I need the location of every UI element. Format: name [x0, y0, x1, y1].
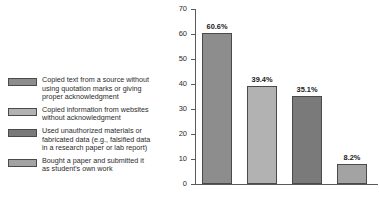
y-axis-tick-label: 0: [159, 180, 187, 188]
y-axis-tick-label: 60: [159, 30, 187, 38]
y-axis-tick: [191, 34, 195, 35]
bar-value-label: 35.1%: [285, 86, 329, 94]
bar-slot: 39.4%: [247, 9, 277, 184]
bar-series: 60.6%39.4%35.1%8.2%: [196, 9, 378, 184]
legend-label: Used unauthorized materials orfabricated…: [42, 127, 150, 153]
bar[interactable]: [202, 33, 232, 185]
bar-slot: 60.6%: [202, 9, 232, 184]
y-axis-tick-label: 40: [159, 80, 187, 88]
y-axis-tick: [191, 59, 195, 60]
legend-label-line: in a research paper or lab report): [42, 144, 150, 153]
y-axis-tick-label: 70: [159, 5, 187, 13]
bar[interactable]: [247, 86, 277, 185]
legend-label-line: proper acknowledgment: [42, 93, 149, 102]
legend-label-line: as student's own work: [42, 165, 144, 174]
legend-item: Bought a paper and submitted itas studen…: [8, 157, 173, 174]
y-axis-tick: [191, 134, 195, 135]
y-axis-tick-label: 10: [159, 155, 187, 163]
y-axis-tick: [191, 109, 195, 110]
legend-label-line: without acknowledgment: [42, 114, 149, 123]
legend-swatch: [8, 159, 37, 167]
bar-value-label: 39.4%: [240, 76, 284, 84]
legend-item: Copied text from a source withoutusing q…: [8, 76, 173, 102]
legend-swatch: [8, 78, 37, 86]
x-axis-line: [195, 184, 378, 185]
bar-value-label: 8.2%: [330, 154, 374, 162]
y-axis-tick: [191, 84, 195, 85]
plot-area: 706050403020100 60.6%39.4%35.1%8.2%: [160, 0, 379, 205]
y-axis-tick-label: 20: [159, 130, 187, 138]
y-axis-tick-label: 30: [159, 105, 187, 113]
bar-value-label: 60.6%: [195, 23, 239, 31]
y-axis-tick: [191, 184, 195, 185]
legend-label: Copied text from a source withoutusing q…: [42, 76, 149, 102]
bar[interactable]: [337, 164, 367, 185]
bar-slot: 8.2%: [337, 9, 367, 184]
y-axis-tick-label: 50: [159, 55, 187, 63]
y-axis-tick: [191, 9, 195, 10]
legend-item: Copied information from websiteswithout …: [8, 106, 173, 123]
legend-swatch: [8, 129, 37, 137]
legend-swatch: [8, 108, 37, 116]
bar[interactable]: [292, 96, 322, 184]
legend-label: Copied information from websiteswithout …: [42, 106, 149, 123]
y-axis-tick: [191, 159, 195, 160]
chart-figure: Copied text from a source withoutusing q…: [0, 0, 379, 205]
chart-legend: Copied text from a source withoutusing q…: [8, 76, 173, 178]
bar-slot: 35.1%: [292, 9, 322, 184]
legend-label: Bought a paper and submitted itas studen…: [42, 157, 144, 174]
legend-item: Used unauthorized materials orfabricated…: [8, 127, 173, 153]
